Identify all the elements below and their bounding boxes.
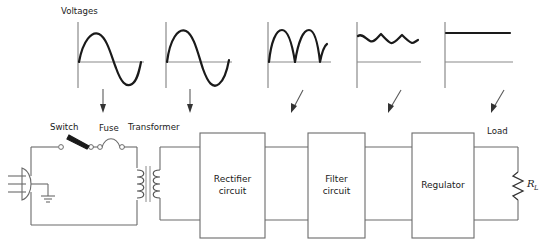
waveform-panel-transformer-secondary bbox=[166, 22, 232, 88]
arrow-3-head bbox=[291, 103, 297, 113]
load-resistor-symbol bbox=[513, 147, 523, 220]
transformer-secondary-coil bbox=[153, 170, 160, 198]
switch-left-terminal bbox=[59, 145, 64, 150]
fuse-label: Fuse bbox=[99, 123, 119, 133]
load-resistor-subscript: L bbox=[533, 184, 538, 192]
switch-blade[interactable] bbox=[67, 135, 89, 149]
arrow-2 bbox=[187, 89, 193, 113]
transformer-label: Transformer bbox=[127, 122, 180, 132]
block-rectifier[interactable]: Rectifier circuit bbox=[200, 133, 265, 238]
waveform-panel-rectifier-output bbox=[268, 22, 331, 88]
rectifier-label-line1: Rectifier bbox=[214, 174, 252, 184]
fuse-left-terminal bbox=[98, 145, 103, 150]
arrow-4 bbox=[388, 90, 401, 113]
transformer-symbol bbox=[137, 147, 160, 220]
wave2-sine-trace bbox=[167, 31, 229, 86]
primary-circuit-wires bbox=[31, 147, 137, 225]
regulator-label-line1: Regulator bbox=[421, 180, 465, 190]
load-resistor-zigzag bbox=[513, 172, 523, 200]
filter-label-line2: circuit bbox=[323, 186, 351, 196]
ac-plug-symbol bbox=[8, 155, 31, 225]
switch-label: Switch bbox=[50, 122, 78, 132]
wave4-ripple-trace bbox=[358, 34, 418, 43]
filter-label-line1: Filter bbox=[325, 174, 348, 184]
ground-symbol bbox=[31, 184, 55, 202]
fuse-right-terminal bbox=[120, 145, 125, 150]
waveform-panel-ac-line-input bbox=[78, 22, 144, 88]
waveform-panel-filter-output bbox=[357, 22, 421, 88]
rectifier-label-line2: circuit bbox=[219, 186, 247, 196]
power-supply-block-diagram: Switch Fuse Transformer bbox=[0, 0, 547, 250]
fuse-symbol bbox=[93, 139, 137, 150]
arrow-3 bbox=[291, 90, 303, 113]
arrow-1-head bbox=[100, 104, 106, 113]
arrow-1 bbox=[100, 89, 106, 113]
switch-symbol[interactable] bbox=[59, 135, 94, 149]
arrow-5 bbox=[491, 90, 504, 113]
voltages-label: Voltages bbox=[61, 6, 98, 16]
wave1-sine-trace bbox=[79, 33, 141, 85]
block-filter[interactable]: Filter circuit bbox=[308, 133, 365, 238]
waveform-panel-regulator-output bbox=[445, 22, 513, 88]
arrow-2-head bbox=[187, 104, 193, 113]
load-label: Load bbox=[487, 126, 508, 136]
transformer-primary-coil bbox=[137, 170, 144, 198]
fuse-element bbox=[102, 139, 120, 147]
switch-right-terminal bbox=[89, 145, 94, 150]
wave3-rectified-trace bbox=[269, 30, 327, 62]
block-regulator[interactable]: Regulator bbox=[412, 133, 474, 238]
diagram-canvas: Switch Fuse Transformer bbox=[0, 0, 547, 250]
